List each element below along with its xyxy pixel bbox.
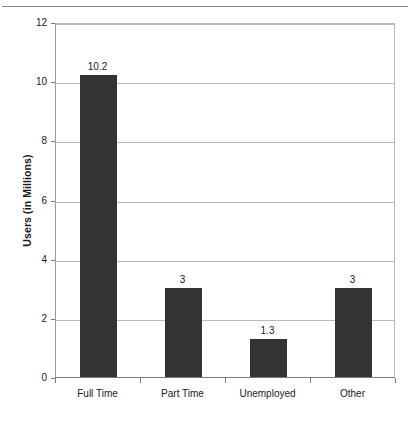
bar-value-label: 10.2 <box>68 61 128 72</box>
y-tick-label: 6 <box>21 196 47 206</box>
bar[interactable] <box>335 288 372 377</box>
bar-value-label: 3 <box>323 274 383 285</box>
x-tick-mark <box>55 378 56 383</box>
x-tick-mark <box>225 378 226 383</box>
x-tick-mark <box>395 378 396 383</box>
x-category-label: Part Time <box>140 388 225 400</box>
gridline <box>56 24 394 25</box>
bar[interactable] <box>80 75 117 377</box>
y-tick-label: 4 <box>21 255 47 265</box>
x-category-label: Full Time <box>55 388 140 400</box>
bar-chart-figure: Users (in Millions) 024681012 Full TimeP… <box>0 0 412 421</box>
x-tick-mark <box>310 378 311 383</box>
x-category-label: Unemployed <box>225 388 310 400</box>
bar-value-label: 1.3 <box>238 325 298 336</box>
bar-value-label: 3 <box>153 274 213 285</box>
bar[interactable] <box>165 288 202 377</box>
top-horizontal-rule <box>2 6 408 7</box>
plot-area <box>55 23 395 378</box>
x-tick-mark <box>140 378 141 383</box>
y-tick-label: 0 <box>21 373 47 383</box>
y-tick-label: 8 <box>21 136 47 146</box>
bar[interactable] <box>250 339 287 377</box>
y-tick-label: 12 <box>21 18 47 28</box>
y-tick-label: 10 <box>21 77 47 87</box>
x-category-label: Other <box>310 388 395 400</box>
y-tick-label: 2 <box>21 314 47 324</box>
